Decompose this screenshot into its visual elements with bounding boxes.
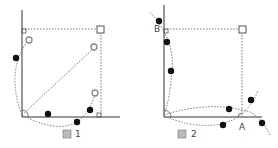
filled-point xyxy=(248,97,254,103)
filled-point xyxy=(13,55,19,61)
caption-icon xyxy=(178,130,186,138)
filled-point xyxy=(220,122,226,128)
filled-point xyxy=(259,120,265,126)
filled-point xyxy=(226,106,232,112)
dotted-arc-bottom xyxy=(22,93,95,126)
dotted-diagonal xyxy=(22,47,95,115)
filled-point xyxy=(45,111,51,117)
caption-icon xyxy=(63,130,71,138)
label-a: A xyxy=(239,122,246,132)
diagram-canvas: 1 B A 2 xyxy=(0,0,278,148)
open-point xyxy=(91,44,97,50)
label-b: B xyxy=(154,24,160,34)
square-marker xyxy=(97,26,104,33)
filled-point xyxy=(164,39,170,45)
figure-1: 1 xyxy=(13,10,120,139)
square-marker xyxy=(239,26,246,33)
filled-point xyxy=(168,68,174,74)
right-angle-mark xyxy=(97,113,101,117)
dotted-arc-lower xyxy=(164,90,258,126)
figure-2: B A 2 xyxy=(150,5,270,139)
figure-1-caption-number: 1 xyxy=(75,129,81,139)
figure-2-caption-number: 2 xyxy=(191,129,197,139)
filled-point xyxy=(74,119,80,125)
filled-point xyxy=(87,107,93,113)
right-angle-mark xyxy=(22,29,26,33)
open-point xyxy=(26,37,32,43)
open-point xyxy=(92,90,98,96)
